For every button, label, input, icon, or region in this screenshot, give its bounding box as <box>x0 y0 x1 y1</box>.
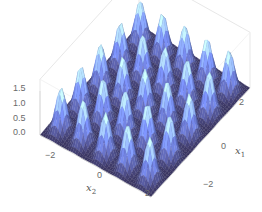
z-tick-0.0: 0.0 <box>13 128 26 137</box>
x1-tick-neg2: −2 <box>203 180 213 189</box>
z-tick-0.5: 0.5 <box>13 114 26 123</box>
z-tick-1.5: 1.5 <box>13 84 26 93</box>
x2-tick-2: 2 <box>145 189 150 198</box>
x1-tick-0: 0 <box>221 142 226 151</box>
surface-plot <box>0 0 262 212</box>
x1-axis-label: x1 <box>235 146 245 159</box>
x2-tick-0: 0 <box>97 171 102 180</box>
x2-tick-neg2: −2 <box>45 151 55 160</box>
z-tick-1.0: 1.0 <box>13 99 26 108</box>
x2-axis-label: x2 <box>86 183 96 196</box>
x1-tick-2: 2 <box>239 98 244 107</box>
